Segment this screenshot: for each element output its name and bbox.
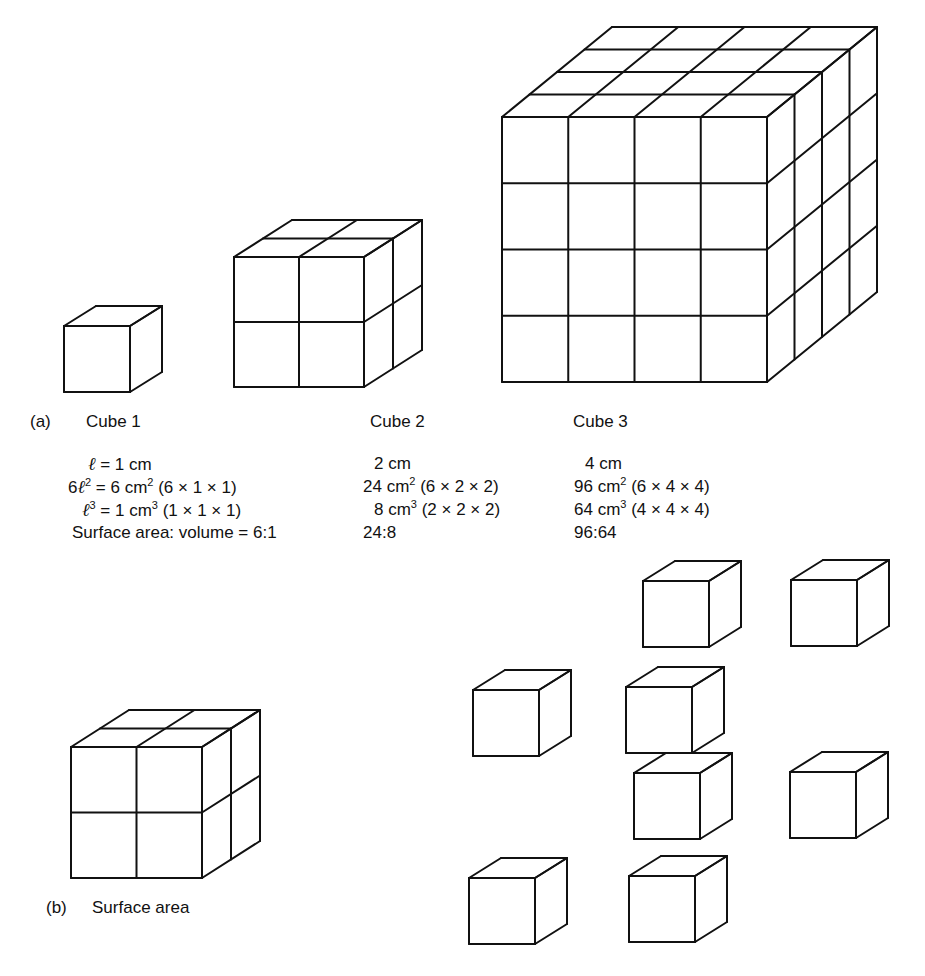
unit-cube-2 xyxy=(791,560,889,646)
ell-symbol: ℓ xyxy=(77,477,85,497)
cube-1-volume: ℓ3 = 1 cm3 (1 × 1 × 1) xyxy=(82,500,241,521)
cube-3-volume: 64 cm3 (4 × 4 × 4) xyxy=(574,500,710,520)
sa-value: 96 cm xyxy=(574,477,620,496)
unit-cube-5 xyxy=(634,753,732,839)
cube-1-side-value: = 1 cm xyxy=(96,455,152,474)
cube-1-side: ℓ = 1 cm xyxy=(88,454,152,475)
cube-1 xyxy=(64,306,162,392)
unit-cube-4 xyxy=(626,667,724,753)
cube-2-ratio: 24:8 xyxy=(363,523,396,543)
cube-1-surface-area: 6ℓ2 = 6 cm2 (6 × 1 × 1) xyxy=(68,477,237,498)
sa-calc: (6 × 1 × 1) xyxy=(153,478,236,497)
part-b-label: (b) xyxy=(46,898,67,918)
part-a-label: (a) xyxy=(30,412,51,432)
vol-calc: (2 × 2 × 2) xyxy=(417,500,500,519)
ell-symbol: ℓ xyxy=(82,500,90,520)
assembled-cube xyxy=(71,710,260,878)
cube-3 xyxy=(502,27,877,382)
cube-2 xyxy=(234,220,422,387)
sa-value: 24 cm xyxy=(363,477,409,496)
cube-1-ratio: Surface area: volume = 6:1 xyxy=(72,523,277,543)
unit-cube-6 xyxy=(790,752,888,838)
unit-cube-3 xyxy=(473,670,571,756)
sa-calc: (6 × 4 × 4) xyxy=(626,477,709,496)
vol-eq: = 1 cm xyxy=(96,501,152,520)
part-b-title: Surface area xyxy=(92,898,189,918)
cube-3-ratio: 96:64 xyxy=(574,523,617,543)
vol-value: 64 cm xyxy=(574,500,620,519)
unit-cube-7 xyxy=(469,858,567,944)
cube-2-volume: 8 cm3 (2 × 2 × 2) xyxy=(374,500,500,520)
cube-2-title: Cube 2 xyxy=(370,412,425,432)
ell-symbol: ℓ xyxy=(88,454,96,474)
sa-calc: (6 × 2 × 2) xyxy=(415,477,498,496)
cube-3-title: Cube 3 xyxy=(573,412,628,432)
cube-2-surface-area: 24 cm2 (6 × 2 × 2) xyxy=(363,477,499,497)
vol-calc: (4 × 4 × 4) xyxy=(626,500,709,519)
cube-3-side: 4 cm xyxy=(585,454,622,474)
vol-calc: (1 × 1 × 1) xyxy=(158,501,241,520)
cube-3-surface-area: 96 cm2 (6 × 4 × 4) xyxy=(574,477,710,497)
unit-cube-1 xyxy=(643,561,741,647)
vol-value: 8 cm xyxy=(374,500,411,519)
cube-1-title: Cube 1 xyxy=(86,412,141,432)
cube-2-side: 2 cm xyxy=(374,454,411,474)
sa-eq: = 6 cm xyxy=(91,478,147,497)
unit-cube-8 xyxy=(629,856,727,942)
